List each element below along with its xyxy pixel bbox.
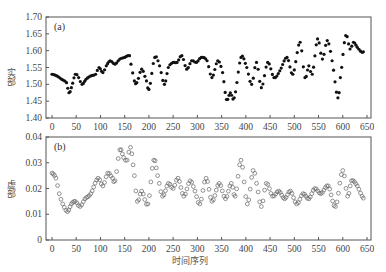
x-tick-label: 400 [239, 122, 254, 132]
data-point [128, 54, 131, 57]
data-point [207, 65, 210, 68]
panel-b-label: (b) [54, 141, 66, 153]
data-point [332, 69, 335, 72]
data-point [143, 75, 146, 78]
data-point [311, 73, 314, 76]
data-point [195, 195, 199, 199]
x-tick-label: 450 [263, 244, 278, 254]
data-point [335, 200, 339, 204]
data-point [253, 171, 257, 175]
data-point [346, 35, 349, 38]
data-point [257, 68, 260, 71]
data-point [142, 70, 145, 73]
data-point [143, 198, 147, 202]
data-point [341, 169, 345, 173]
data-point [287, 59, 290, 62]
data-point [163, 83, 166, 86]
data-point [324, 44, 327, 47]
data-point [338, 91, 341, 94]
data-point [297, 44, 300, 47]
data-point [161, 79, 164, 82]
x-tick-label: 150 [118, 244, 133, 254]
data-point [244, 62, 247, 65]
data-point [268, 62, 271, 65]
data-point [322, 53, 325, 56]
chart-figure: (a) 1.401.451.501.551.601.651.70 0501001… [0, 0, 386, 272]
data-point [150, 166, 154, 170]
data-point [75, 73, 78, 76]
data-point [160, 71, 163, 74]
data-point [331, 59, 334, 62]
data-point [135, 81, 138, 84]
data-point [69, 90, 72, 93]
data-point [343, 41, 346, 44]
data-point [113, 179, 117, 183]
data-point [263, 188, 267, 192]
x-tick-label: 350 [214, 122, 229, 132]
data-point [347, 42, 350, 45]
data-point [158, 64, 161, 67]
data-point [131, 163, 135, 167]
panel-a-ylabel: 实部 [6, 67, 16, 87]
y-tick-label: 1.70 [25, 12, 42, 22]
data-point [313, 54, 316, 57]
data-point [271, 73, 274, 76]
data-point [341, 53, 344, 56]
panel-a-real-part: (a) 1.401.451.501.551.601.651.70 0501001… [6, 12, 374, 132]
data-point [318, 41, 321, 44]
x-tick-label: 250 [166, 244, 181, 254]
data-point [199, 197, 203, 201]
data-point [331, 199, 335, 203]
data-point [150, 72, 153, 75]
data-point [339, 76, 342, 79]
data-point [153, 159, 157, 163]
data-point [56, 184, 60, 188]
data-point [201, 189, 205, 193]
data-point [94, 73, 97, 76]
data-point [307, 64, 310, 67]
data-point [357, 187, 361, 191]
x-tick-label: 50 [71, 122, 81, 132]
data-point [101, 71, 104, 74]
data-point [134, 189, 138, 193]
data-point [164, 189, 168, 193]
panel-b-imag-part: (b) 00.010.020.030.04 050100150200250300… [6, 132, 374, 266]
data-point [293, 68, 296, 71]
data-point [179, 186, 183, 190]
data-point [209, 72, 212, 75]
data-point [278, 69, 281, 72]
data-point [157, 181, 161, 185]
data-point [280, 67, 283, 70]
data-point [338, 181, 342, 185]
data-point [247, 198, 251, 202]
data-point [79, 80, 82, 83]
data-point [235, 187, 239, 191]
data-point [326, 39, 329, 42]
data-point [327, 42, 330, 45]
data-point [244, 195, 248, 199]
data-point [263, 74, 266, 77]
x-tick-label: 200 [142, 244, 157, 254]
data-point [312, 66, 315, 69]
y-tick-label: 1.65 [25, 29, 42, 39]
data-point [234, 90, 237, 93]
x-axis-title: 时间序列 [172, 255, 208, 266]
y-tick-label: 0.02 [25, 184, 42, 194]
data-point [112, 180, 116, 184]
data-point [219, 65, 222, 68]
data-point [299, 41, 302, 44]
data-point [267, 187, 271, 191]
data-point [130, 152, 134, 156]
x-tick-label: 450 [263, 122, 278, 132]
data-point [309, 70, 312, 73]
data-point [177, 58, 180, 61]
data-point [239, 158, 243, 162]
data-point [155, 55, 158, 58]
data-point [285, 56, 288, 59]
data-point [321, 57, 324, 60]
data-point [159, 190, 163, 194]
data-point [207, 187, 211, 191]
y-tick-label: 1.50 [25, 79, 42, 89]
data-point [250, 175, 254, 179]
data-point [288, 65, 291, 68]
